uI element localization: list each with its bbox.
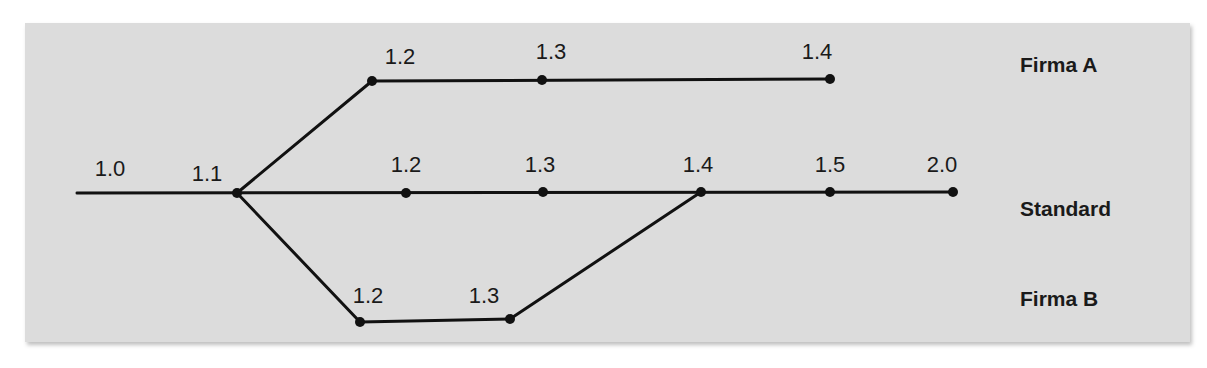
edge-firma-b-merge-to-standard-1-4 (510, 192, 701, 319)
label-standard-2-0: 2.0 (927, 152, 958, 177)
edge-1-1-to-firma-a-1-2 (237, 81, 372, 193)
node-firma-a-1-3 (537, 75, 547, 85)
edge-firma-b-line (360, 319, 510, 322)
edge-standard-trunk (77, 192, 953, 193)
node-standard-1-1 (232, 188, 242, 198)
label-firma-b-1-3: 1.3 (469, 283, 500, 308)
node-standard-1-5 (825, 187, 835, 197)
node-standard-1-4 (696, 187, 706, 197)
nodes (232, 74, 958, 327)
label-standard-1-4: 1.4 (683, 152, 714, 177)
label-standard-1-2: 1.2 (391, 152, 422, 177)
label-standard-1-5: 1.5 (815, 152, 846, 177)
node-standard-1-3 (538, 187, 548, 197)
label-standard-1-0: 1.0 (95, 156, 126, 181)
node-firma-a-1-4 (825, 74, 835, 84)
label-firma-a-1-4: 1.4 (802, 39, 833, 64)
label-firma-a-1-2: 1.2 (385, 44, 416, 69)
node-firma-b-1-2 (355, 317, 365, 327)
branch-label-standard: Standard (1020, 197, 1111, 220)
label-firma-a-1-3: 1.3 (536, 39, 567, 64)
branch-label-firma-a: Firma A (1020, 53, 1097, 76)
branch-labels: Firma A Standard Firma B (1020, 53, 1111, 310)
node-firma-b-1-3 (505, 314, 515, 324)
branch-label-firma-b: Firma B (1020, 287, 1098, 310)
edges (77, 79, 953, 322)
label-standard-1-3: 1.3 (525, 152, 556, 177)
node-firma-a-1-2 (367, 76, 377, 86)
label-standard-1-1: 1.1 (192, 161, 223, 186)
label-firma-b-1-2: 1.2 (353, 283, 384, 308)
node-standard-2-0 (948, 187, 958, 197)
version-tree-diagram: 1.0 1.1 1.2 1.3 1.4 1.5 2.0 1.2 1.3 1.4 … (0, 0, 1207, 368)
edge-firma-a-line (372, 79, 830, 81)
edge-1-1-to-firma-b-1-2 (237, 193, 360, 322)
node-standard-1-2 (401, 188, 411, 198)
